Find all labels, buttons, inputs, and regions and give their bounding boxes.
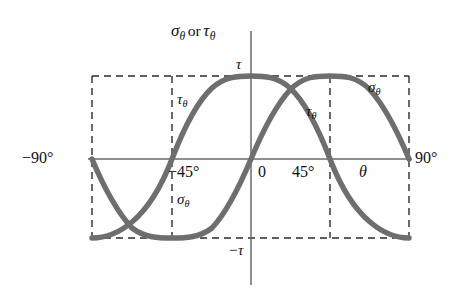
x-tick-label-pos45: 45°	[292, 164, 314, 180]
curve-label-sigma-theta-upper-right: σθ	[368, 80, 381, 97]
y-axis-title: σθorτθ	[171, 22, 215, 42]
stress-transformation-chart: σθorτθ τ −τ −90° −45° 0 45° θ 90° τθ τθ …	[0, 0, 469, 291]
curve-label-tau-theta-right-subscript: θ	[312, 110, 317, 121]
y-axis-title-sigma: σ	[171, 21, 179, 40]
y-tick-label-tau: τ	[236, 57, 241, 72]
y-axis-title-sigma-subscript: θ	[180, 30, 186, 43]
curve-label-tau-theta-right: τθ	[306, 104, 317, 121]
x-tick-label-neg45: −45°	[168, 164, 199, 180]
curve-label-tau-theta-left-subscript: θ	[183, 98, 188, 109]
curve-label-tau-theta-left-symbol: τ	[177, 91, 182, 107]
x-tick-label-pos90: 90°	[415, 150, 437, 166]
curve-label-tau-theta-left: τθ	[177, 92, 188, 109]
x-tick-label-zero: 0	[258, 164, 266, 180]
curve-label-sigma-theta-lower-left: σθ	[177, 192, 190, 209]
y-axis-title-tau: τ	[203, 21, 209, 40]
curve-label-sigma-theta-upper-symbol: σ	[368, 79, 375, 95]
y-axis-title-tau-subscript: θ	[210, 30, 216, 43]
x-tick-label-neg90: −90°	[22, 150, 53, 166]
x-axis-label-theta: θ	[359, 164, 367, 180]
curve-label-sigma-theta-lower-subscript: θ	[185, 198, 190, 209]
curve-label-sigma-theta-lower-symbol: σ	[177, 191, 184, 207]
y-tick-label-negative-tau: −τ	[228, 243, 244, 258]
curve-label-tau-theta-right-symbol: τ	[306, 103, 311, 119]
y-axis-title-or: or	[188, 22, 201, 39]
curve-label-sigma-theta-upper-subscript: θ	[376, 86, 381, 97]
